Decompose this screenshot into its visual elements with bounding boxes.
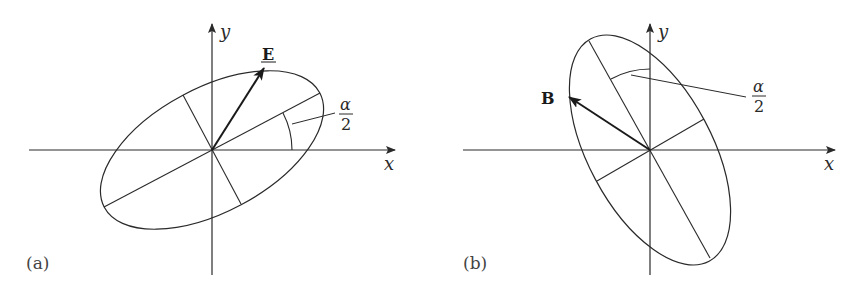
panel-b: y x B α 2 (b) xyxy=(463,10,835,291)
y-axis-label: y xyxy=(219,21,231,42)
e-field-vector xyxy=(212,68,264,150)
x-axis-label: x xyxy=(824,153,834,174)
angle-arc xyxy=(283,113,292,150)
angle-label-numerator: α xyxy=(753,77,764,96)
b-field-vector xyxy=(569,97,650,150)
panel-label-b: (b) xyxy=(463,253,487,273)
x-axis-label: x xyxy=(384,153,394,174)
vector-label-e: E xyxy=(262,45,274,64)
angle-label-denominator: 2 xyxy=(341,115,351,134)
polarization-ellipse-figure: y x E α 2 (a) y x B α 2 (b) xyxy=(0,0,862,291)
panel-label-a: (a) xyxy=(26,253,49,273)
y-axis-label: y xyxy=(657,21,669,42)
angle-label-denominator: 2 xyxy=(754,97,764,116)
panel-a: y x E α 2 (a) xyxy=(26,21,395,275)
angle-label-numerator: α xyxy=(340,95,351,114)
vector-label-b: B xyxy=(541,89,555,108)
angle-leader-line xyxy=(292,113,335,124)
